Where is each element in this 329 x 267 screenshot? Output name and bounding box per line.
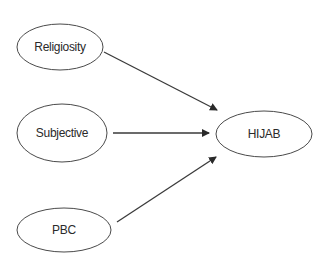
node-hijab: HIJAB: [216, 111, 312, 157]
edges: [104, 52, 217, 222]
path-diagram: Religiosity Subjective PBC HIJAB: [0, 0, 329, 267]
religiosity-label: Religiosity: [34, 40, 86, 54]
node-pbc: PBC: [17, 208, 111, 252]
pbc-label: PBC: [52, 223, 76, 237]
arrow-pbc-to-hijab: [117, 157, 216, 222]
subjective-label: Subjective: [36, 126, 89, 140]
node-religiosity: Religiosity: [17, 24, 103, 70]
node-subjective: Subjective: [17, 104, 107, 162]
arrow-religiosity-to-hijab: [104, 52, 217, 110]
hijab-label: HIJAB: [248, 127, 281, 141]
